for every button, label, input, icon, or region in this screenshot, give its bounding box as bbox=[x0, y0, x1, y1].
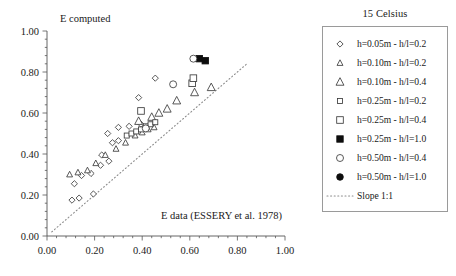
legend-item-label: h=0.10m - h/l=0.4 bbox=[357, 76, 426, 87]
y-tick-label: 0.40 bbox=[21, 149, 39, 160]
legend-symbol bbox=[337, 59, 343, 65]
legend-item-label: Slope 1:1 bbox=[357, 190, 393, 201]
legend-marker-d005_02-icon bbox=[323, 37, 357, 51]
legend-title: 15 Celsius bbox=[322, 8, 448, 19]
y-tick-label: 1.00 bbox=[21, 26, 39, 37]
y-tick-label: 0.00 bbox=[21, 231, 39, 242]
legend-box: h=0.05m - h/l=0.2h=0.10m - h/l=0.2h=0.10… bbox=[322, 26, 448, 212]
legend-symbol bbox=[336, 77, 344, 85]
legend-item-label: h=0.25m - h/l=0.2 bbox=[357, 95, 426, 106]
legend-marker-c050_10-icon bbox=[323, 170, 357, 184]
legend-item: h=0.25m - h/l=1.0 bbox=[323, 129, 447, 148]
legend-symbol bbox=[338, 98, 343, 103]
legend: 15 Celsius h=0.05m - h/l=0.2h=0.10m - h/… bbox=[322, 8, 448, 212]
legend-item-label: h=0.10m - h/l=0.2 bbox=[357, 57, 426, 68]
x-tick-label: 0.40 bbox=[133, 245, 151, 256]
legend-item: h=0.50m - h/l=0.4 bbox=[323, 148, 447, 167]
legend-symbol bbox=[337, 40, 343, 46]
x-axis-title: E data (ESSERY et al. 1978) bbox=[161, 210, 282, 222]
legend-symbol bbox=[337, 173, 344, 180]
legend-item: h=0.25m - h/l=0.4 bbox=[323, 110, 447, 129]
figure-container: E computed E data (ESSERY et al. 1978) 0… bbox=[0, 0, 456, 276]
y-tick-label: 0.60 bbox=[21, 108, 39, 119]
legend-item: h=0.50m - h/l=1.0 bbox=[323, 167, 447, 186]
legend-item-label: h=0.50m - h/l=1.0 bbox=[357, 171, 426, 182]
legend-marker-s025_10-icon bbox=[323, 132, 357, 146]
legend-marker-slope11-icon bbox=[323, 189, 357, 203]
legend-item-label: h=0.50m - h/l=0.4 bbox=[357, 152, 426, 163]
legend-item: h=0.10m - h/l=0.2 bbox=[323, 53, 447, 72]
legend-symbol bbox=[337, 154, 344, 161]
x-tick-label: 1.00 bbox=[276, 245, 294, 256]
legend-item: Slope 1:1 bbox=[323, 186, 447, 205]
y-tick-label: 0.20 bbox=[21, 190, 39, 201]
y-tick-label: 0.80 bbox=[21, 67, 39, 78]
x-tick-label: 0.20 bbox=[85, 245, 103, 256]
legend-marker-t010_02-icon bbox=[323, 56, 357, 70]
legend-marker-s025_04-icon bbox=[323, 113, 357, 127]
plot-area: E computed E data (ESSERY et al. 1978) 0… bbox=[0, 0, 300, 276]
y-axis-title: E computed bbox=[60, 13, 111, 24]
legend-item-label: h=0.25m - h/l=0.4 bbox=[357, 114, 426, 125]
x-tick-label: 0.80 bbox=[228, 245, 246, 256]
legend-marker-s025_02-icon bbox=[323, 94, 357, 108]
legend-marker-c050_04-icon bbox=[323, 151, 357, 165]
chart-text-layer: E computed E data (ESSERY et al. 1978) 0… bbox=[0, 0, 300, 276]
legend-item-label: h=0.25m - h/l=1.0 bbox=[357, 133, 426, 144]
legend-item: h=0.10m - h/l=0.4 bbox=[323, 72, 447, 91]
legend-item: h=0.25m - h/l=0.2 bbox=[323, 91, 447, 110]
legend-item-label: h=0.05m - h/l=0.2 bbox=[357, 38, 426, 49]
legend-marker-t010_04-icon bbox=[323, 75, 357, 89]
legend-symbol bbox=[337, 135, 343, 141]
legend-symbol bbox=[337, 116, 344, 123]
x-tick-label: 0.60 bbox=[181, 245, 199, 256]
legend-item: h=0.05m - h/l=0.2 bbox=[323, 34, 447, 53]
x-tick-label: 0.00 bbox=[38, 245, 56, 256]
